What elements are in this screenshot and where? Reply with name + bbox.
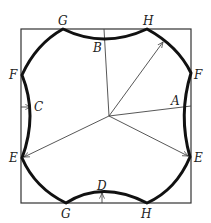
label-h-bottom: H [140,207,152,221]
radius-line-b [104,29,109,116]
label-e-left: E [8,151,18,165]
arrow-lower-left [24,116,109,157]
diagram-canvas: G H B F F C A E E D G H [0,0,211,223]
arrow-lower-right [109,116,188,156]
label-g-bottom: G [61,207,71,221]
label-b: B [92,41,102,55]
construction-lines [21,29,191,203]
label-c: C [34,100,43,114]
curved-outline [22,29,191,203]
label-e-right: E [193,151,203,165]
label-g-top: G [58,14,68,28]
bounding-square [21,29,191,203]
label-h-top: H [142,14,154,28]
label-a: A [170,94,180,108]
label-f-right: F [193,68,203,82]
label-d: D [96,179,107,193]
arrow-upper-right [109,42,163,116]
label-f-left: F [8,68,18,82]
